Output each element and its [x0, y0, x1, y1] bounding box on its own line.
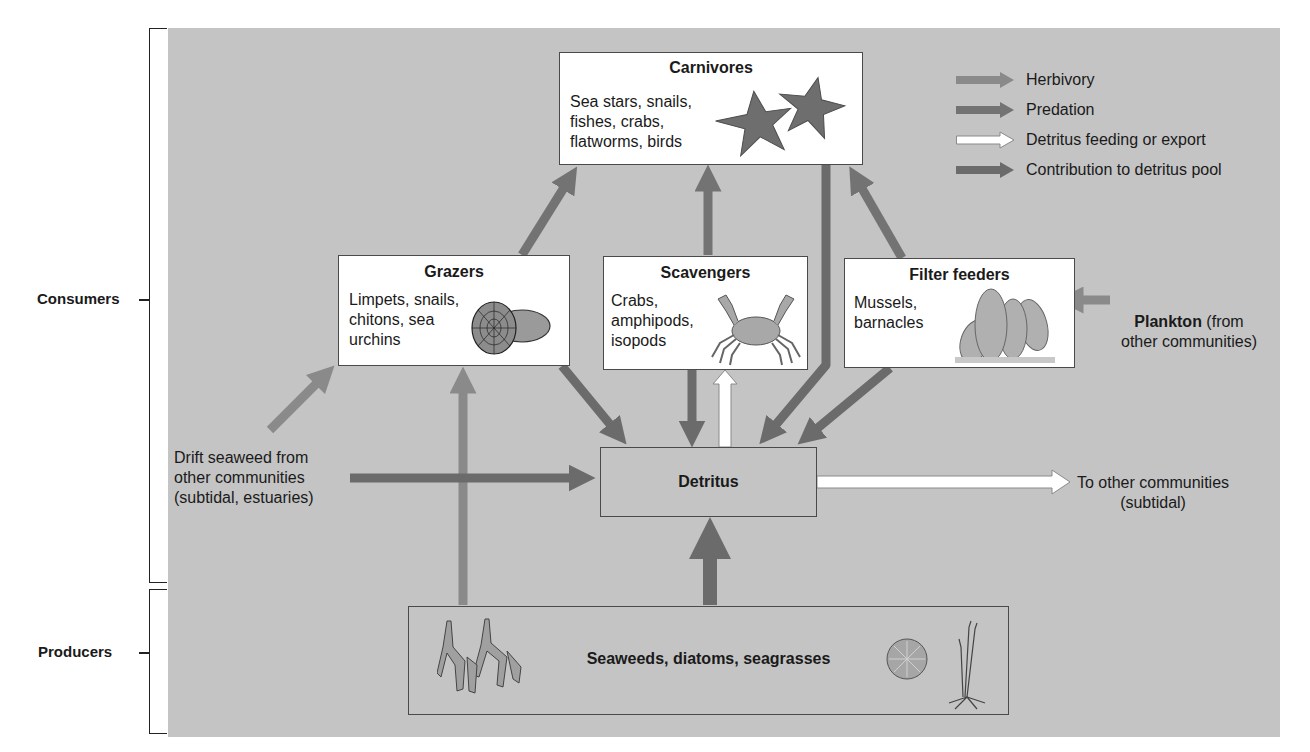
legend-predation: Predation — [956, 100, 1095, 120]
crab-icon — [704, 291, 808, 367]
predation-arrow-icon — [956, 101, 1016, 119]
scavengers-title: Scavengers — [604, 264, 807, 282]
diatom-icon — [885, 637, 929, 681]
arrow-drift-to-grazers — [270, 375, 325, 430]
contribution-arrow-icon — [956, 161, 1016, 179]
herbivory-arrow-icon — [956, 71, 1016, 89]
detritus-title: Detritus — [601, 473, 816, 491]
seagrass-icon — [947, 617, 987, 711]
filter-feeders-body: Mussels, barnacles — [854, 293, 923, 333]
scavengers-box: Scavengers Crabs, amphipods, isopods — [603, 256, 808, 370]
arrow-detritus-to-scavengers — [713, 370, 737, 447]
seaweed-icon — [437, 617, 527, 699]
detritus-feeding-arrow-icon — [956, 131, 1016, 149]
grazers-box: Grazers Limpets, snails, chitons, sea ur… — [338, 255, 570, 366]
scavengers-body: Crabs, amphipods, isopods — [611, 291, 694, 351]
arrow-detritus-to-other-communities — [817, 470, 1070, 494]
plankton-title: Plankton — [1134, 313, 1202, 330]
grazers-title: Grazers — [339, 263, 569, 281]
arrow-filter-feeders-to-carnivores — [856, 178, 902, 258]
arrow-grazers-to-detritus — [562, 366, 618, 434]
carnivores-body: Sea stars, snails, fishes, crabs, flatwo… — [570, 92, 692, 152]
grazers-body: Limpets, snails, chitons, sea urchins — [349, 290, 459, 350]
legend-detritus-feeding: Detritus feeding or export — [956, 130, 1206, 150]
filter-feeders-box: Filter feeders Mussels, barnacles — [844, 258, 1075, 368]
legend-herbivory: Herbivory — [956, 70, 1094, 90]
export-label: To other communities (subtidal) — [1077, 473, 1229, 513]
producers-box: Seaweeds, diatoms, seagrasses — [408, 606, 1009, 715]
drift-seaweed-label: Drift seaweed from other communities (su… — [174, 448, 314, 508]
plankton-label: Plankton (from other communities) — [1121, 292, 1257, 352]
arrow-grazers-to-carnivores — [522, 178, 570, 255]
sea-star-icon — [710, 71, 860, 163]
mussels-icon — [945, 285, 1065, 365]
legend-contribution: Contribution to detritus pool — [956, 160, 1222, 180]
filter-feeders-title: Filter feeders — [845, 266, 1074, 284]
limpet-shell-icon — [464, 296, 564, 356]
detritus-box: Detritus — [600, 447, 817, 517]
carnivores-box: Carnivores Sea stars, snails, fishes, cr… — [559, 52, 863, 165]
